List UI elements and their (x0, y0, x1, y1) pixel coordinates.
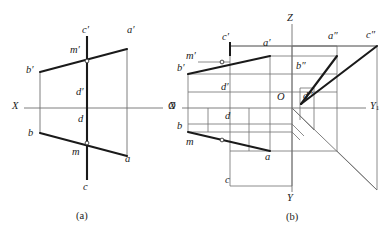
point-label-a-a: a (125, 154, 130, 165)
axis-label-y-b: Y (287, 193, 293, 204)
point-label-d-b: d (225, 111, 230, 122)
point-label-d-prime-a: d′ (76, 87, 84, 98)
point-marker-m-prime-b (220, 60, 224, 64)
point-label-c-prime-b: c′ (222, 32, 229, 43)
point-marker-m-b (220, 138, 224, 142)
point-label-m-prime-b: m′ (186, 51, 196, 62)
point-label-m-a: m (72, 147, 80, 158)
point-label-a-prime-b: a′ (263, 38, 271, 49)
point-label-a-dprime-b: a″ (328, 31, 338, 42)
point-label-m-b: m (186, 137, 194, 148)
figure-caption-b: (b) (286, 212, 298, 223)
segment-b-a-a (40, 133, 127, 156)
point-label-d-a: d (78, 114, 83, 125)
point-label-d-dprime-b: d″ (303, 91, 313, 102)
point-label-b-b: b (177, 121, 182, 132)
point-marker-m-prime-a (85, 59, 89, 63)
point-label-a-b: a (265, 152, 270, 163)
diagram-b-group (182, 24, 377, 192)
point-label-b-prime-a: b′ (26, 65, 34, 76)
axis-label-x-b: X (169, 101, 175, 112)
point-marker-m-a (85, 141, 89, 145)
diag-helper-1-b (292, 108, 314, 130)
axis-label-x-a: X (12, 101, 18, 112)
point-label-c-dprime-b: c″ (366, 30, 375, 41)
point-label-c-b: c (225, 175, 230, 186)
segment-b-prime-a-prime-a (40, 49, 127, 72)
point-label-b-a: b (28, 128, 33, 139)
segment-b-a-b (188, 132, 270, 151)
segment-b-prime-a-prime-b (188, 56, 270, 74)
axis-label-y1-subscript: 1 (376, 104, 380, 112)
point-label-c-prime-a: c′ (82, 25, 89, 36)
point-label-b-dprime-b: b″ (296, 61, 306, 72)
figure-container: X O c′ a′ m′ b′ d′ d b m a c Z X Y1 Y c′… (0, 0, 391, 231)
diag-helper-3-b (292, 132, 300, 140)
point-label-a-prime-a: a′ (127, 25, 135, 36)
figure-caption-a: (a) (76, 211, 88, 222)
axis-label-y1-b: Y1 (370, 101, 379, 112)
point-label-m-prime-a: m′ (70, 45, 80, 56)
diagram-a-group (24, 36, 163, 180)
axis-label-z-b: Z (287, 13, 293, 24)
point-label-d-prime-b: d′ (221, 82, 229, 93)
point-label-b-prime-b: b′ (177, 63, 185, 74)
point-label-o-b: O (277, 92, 285, 103)
point-label-c-a: c (83, 182, 88, 193)
profile-box-diag-bottom-b (337, 151, 377, 190)
